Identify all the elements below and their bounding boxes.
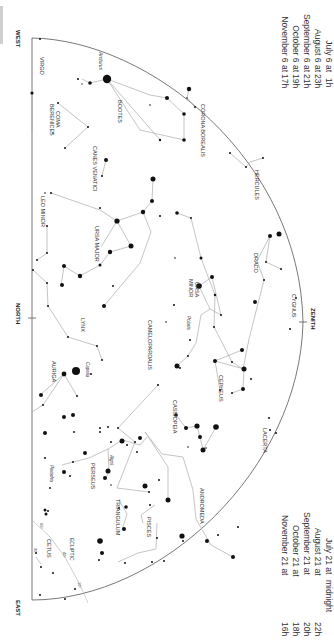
star-arcturus [103, 75, 111, 83]
constellation-labels: VIRGO Arcturus BOOTES CORONA BOREALIS CO… [33, 51, 297, 588]
label-ecliptic: ECLIPTIC [69, 538, 75, 561]
label-arcturus: Arcturus [98, 51, 103, 70]
time-top-2-time: 21h [302, 74, 312, 88]
time-bottom-2-time: 20h [302, 622, 312, 636]
label-lacerta: LACERTA [262, 428, 268, 453]
label-cygnus: CYGNUS [291, 294, 297, 318]
label-pisces: PISCES [146, 517, 152, 538]
label-berenices: BERENICES [49, 104, 55, 136]
west-label: WEST [15, 30, 21, 48]
star-chart: WEST NORTH EAST ZENITH July 6 at 1h Augu… [0, 0, 334, 640]
label-virgo: VIRGO [39, 57, 45, 75]
time-bottom-3-date: October 21 at [291, 525, 301, 577]
star-polaris [175, 364, 180, 369]
stars [30, 38, 297, 600]
label-canes-venatici: CANES VENATICI [92, 146, 98, 192]
horizon-arc [32, 38, 303, 600]
ecliptic-10: 10° [77, 582, 82, 588]
time-bottom-1-date: August 21 at [313, 528, 323, 576]
star-algol [106, 469, 111, 474]
label-leo-minor: LEO MINOR [40, 196, 46, 227]
time-top-4-date: November 6 at [280, 16, 290, 72]
time-top-2-date: September 6 at [302, 14, 312, 73]
label-algol: Algol [109, 454, 114, 466]
label-hercules: HERCULES [254, 170, 260, 200]
label-andromeda: ANDROMEDA [199, 488, 205, 524]
zenith-label: ZENITH [310, 308, 316, 330]
time-bottom-0-time: midnight [324, 580, 334, 613]
time-bottom-3-time: 18h [291, 622, 301, 636]
north-label: NORTH [15, 303, 21, 324]
label-ursa-major: URSA MAJOR [94, 226, 100, 262]
label-cetus: CETUS [46, 539, 52, 558]
time-bottom-1-time: 22h [313, 622, 323, 636]
east-label: EAST [15, 600, 21, 616]
label-draco: DRACO [253, 253, 259, 274]
label-polaris: Polaris [186, 316, 191, 331]
label-cepheus: CEPHEUS [218, 375, 224, 402]
time-top-1-time: 23h [313, 74, 323, 88]
label-capella: Capella [85, 362, 90, 378]
label-lynx: LYNX [80, 318, 86, 332]
label-pleiades: Pleiades [49, 465, 54, 483]
time-bottom-4-date: November 21 at [280, 515, 290, 576]
label-bootes: BOOTES [117, 100, 123, 123]
time-top-1-date: August 6 at [313, 29, 323, 73]
time-bottom-0-date: July 21 at [324, 538, 334, 575]
time-top-3-date: October 6 at [291, 25, 301, 72]
time-top-0-date: July 6 at [324, 40, 334, 72]
time-top-0-time: 1h [324, 78, 334, 88]
label-cassiopeia: CASSIOPEIA [172, 400, 178, 434]
time-top-3-time: 19h [291, 74, 301, 88]
time-bottom-2-date: September 21 at [302, 512, 312, 575]
time-bottom-4-time: 16h [280, 622, 290, 636]
label-perseus: PERSEUS [90, 463, 96, 490]
label-camelopardalis: CAMELOPARDALIS [147, 320, 153, 370]
times-bottom: July 21 at midnight August 21 at 22h Sep… [280, 512, 334, 636]
ecliptic-60: 60° [39, 523, 44, 529]
star-capella [72, 367, 80, 375]
ecliptic-30: 30° [33, 548, 38, 554]
times-top: July 6 at 1h August 6 at 23h September 6… [280, 14, 334, 89]
ecliptic-40: 40° [62, 552, 67, 558]
constellation-lines [32, 79, 281, 603]
label-minor: MINOR [188, 279, 194, 297]
time-top-4-time: 17h [280, 74, 290, 88]
label-corona-borealis: CORONA BOREALIS [200, 104, 206, 157]
label-auriga: AURIGA [51, 361, 57, 382]
label-triangulum: TRIANGULUM [115, 499, 121, 536]
